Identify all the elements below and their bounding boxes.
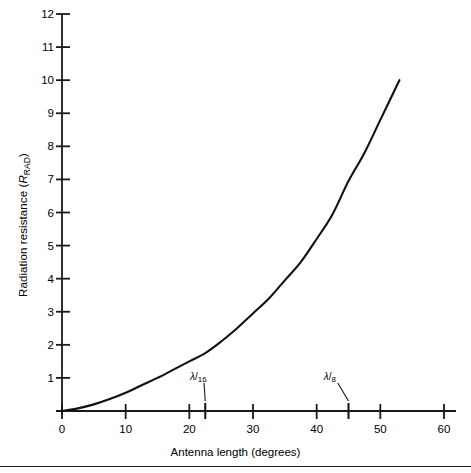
y-axis-label-subscript: RAD — [22, 157, 32, 175]
y-axis-label-text: Radiation resistance (RRAD) — [17, 153, 29, 297]
y-axis-label-symbol: R — [17, 175, 29, 183]
x-tick-label: 50 — [368, 423, 392, 435]
x-tick-label: 20 — [177, 423, 201, 435]
x-tick-label: 40 — [305, 423, 329, 435]
y-tick-label: 1 — [32, 372, 54, 384]
chart-plot-area — [0, 0, 471, 473]
x-tick-label: 0 — [50, 423, 74, 435]
y-tick-label: 8 — [32, 140, 54, 152]
x-tick-label: 30 — [241, 423, 265, 435]
y-axis-label-prefix: Radiation resistance ( — [17, 184, 29, 297]
annotation-denominator: 16 — [198, 375, 207, 384]
figure-bottom-rule — [0, 466, 471, 467]
x-tick-label: 10 — [114, 423, 138, 435]
x-tick-label: 60 — [432, 423, 456, 435]
y-tick-label: 7 — [32, 173, 54, 185]
y-tick-label: 12 — [32, 8, 54, 20]
x-axis-label: Antenna length (degrees) — [0, 446, 471, 458]
y-tick-label: 10 — [32, 74, 54, 86]
y-tick-label: 3 — [32, 306, 54, 318]
y-tick-marks — [56, 14, 70, 378]
annotation-denominator: 8 — [331, 375, 335, 384]
annotation-label: λ/16 — [190, 371, 207, 382]
y-tick-label: 4 — [32, 273, 54, 285]
y-tick-label: 6 — [32, 207, 54, 219]
radiation-resistance-curve — [62, 80, 399, 411]
y-tick-label: 5 — [32, 240, 54, 252]
annotation-leader-lines — [204, 383, 348, 401]
y-tick-label: 2 — [32, 339, 54, 351]
annotation-label: λ/8 — [324, 371, 336, 382]
radiation-resistance-figure: Radiation resistance (RRAD) Antenna leng… — [0, 0, 471, 473]
y-tick-label: 9 — [32, 107, 54, 119]
y-tick-label: 11 — [32, 41, 54, 53]
